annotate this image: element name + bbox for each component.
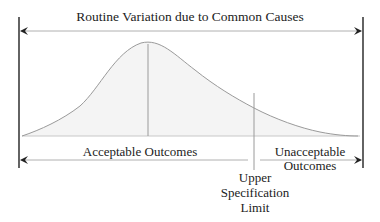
usl-line-3: Limit: [210, 200, 300, 215]
unacceptable-line-1: Unacceptable: [258, 145, 362, 159]
distribution-area: [22, 42, 358, 136]
unacceptable-outcomes-label: Unacceptable Outcomes: [258, 145, 362, 173]
diagram-title: Routine Variation due to Common Causes: [0, 10, 380, 24]
usl-line-1: Upper: [210, 170, 300, 185]
acceptable-outcomes-label: Acceptable Outcomes: [40, 145, 240, 159]
usl-line-2: Specification: [210, 185, 300, 200]
process-variation-diagram: [0, 0, 380, 222]
upper-spec-limit-label: Upper Specification Limit: [210, 170, 300, 215]
